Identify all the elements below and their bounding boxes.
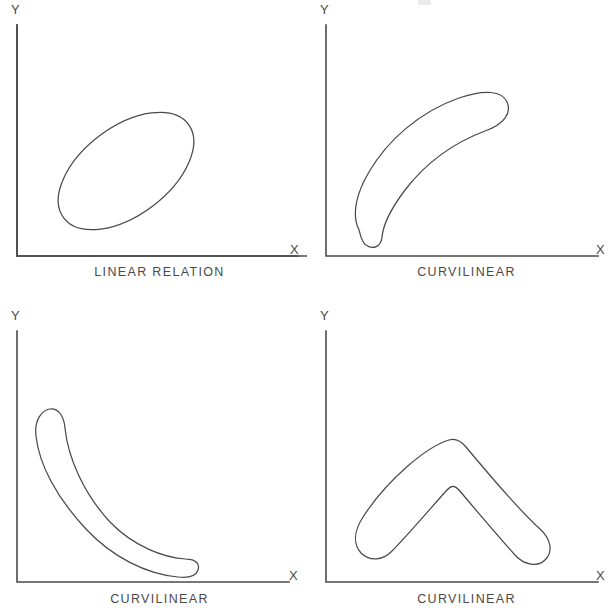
y-axis-label: Y xyxy=(320,309,329,322)
panel-caption-curvilinear-decreasing: CURVILINEAR xyxy=(0,592,307,606)
ellipse-envelope xyxy=(37,89,215,253)
panel-caption-text: CURVILINEAR xyxy=(110,592,209,606)
panel-curvilinear-inverted-u: Y X CURVILINEAR xyxy=(307,306,614,612)
y-axis-label: Y xyxy=(11,309,20,322)
panel-curvilinear-decreasing-drawing xyxy=(0,306,307,612)
banana-envelope xyxy=(355,92,508,247)
x-axis-label: X xyxy=(289,569,298,582)
y-axis-label: Y xyxy=(11,3,20,16)
banana-envelope xyxy=(36,409,199,577)
panel-curvilinear-increasing: Y X CURVILINEAR xyxy=(307,0,614,306)
x-axis-label: X xyxy=(290,243,299,256)
axis-lines xyxy=(326,331,598,582)
x-axis-label: X xyxy=(596,243,605,256)
panel-caption-text: LINEAR RELATION xyxy=(94,265,224,279)
panel-caption-curvilinear-increasing: CURVILINEAR xyxy=(307,265,614,279)
panel-curvilinear-inverted-u-drawing xyxy=(307,306,614,612)
axis-lines xyxy=(326,25,598,256)
panel-caption-text: CURVILINEAR xyxy=(417,265,516,279)
x-axis-label: X xyxy=(596,569,605,582)
panel-caption-curvilinear-inverted-u: CURVILINEAR xyxy=(307,592,614,606)
axis-lines-clipped xyxy=(17,25,298,256)
panel-caption-linear-relation: LINEAR RELATION xyxy=(0,265,307,279)
axis-lines xyxy=(17,25,307,256)
panel-curvilinear-decreasing: Y X CURVILINEAR xyxy=(0,306,307,612)
panel-linear-relation-drawing xyxy=(0,0,307,306)
y-axis-label: Y xyxy=(320,3,329,16)
panel-curvilinear-increasing-drawing xyxy=(307,0,614,306)
boomerang-upper-band xyxy=(356,439,551,564)
figure-sheet: Y X LINEAR RELATION Y X CURVILINEAR Y X … xyxy=(0,0,614,613)
axis-lines xyxy=(17,331,289,582)
panel-linear-relation: Y X LINEAR RELATION xyxy=(0,0,307,306)
panel-caption-text: CURVILINEAR xyxy=(417,592,516,606)
